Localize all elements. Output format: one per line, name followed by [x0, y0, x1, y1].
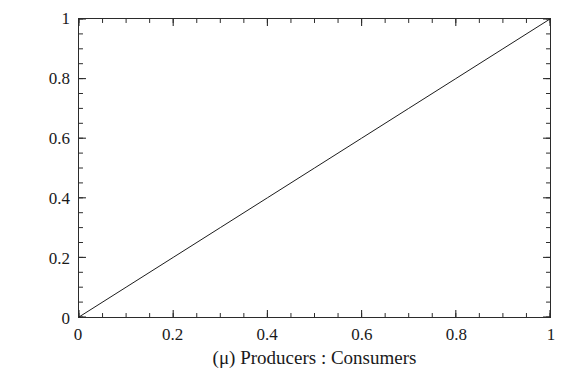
- data-line-diversity: [79, 19, 550, 317]
- figure-canvas: (d) Diversity 00.20.40.60.81 00.20.40.60…: [0, 0, 576, 380]
- y-tick-label: 0.6: [49, 130, 70, 147]
- x-axis-title: (μ) Producers : Consumers: [78, 347, 551, 369]
- y-tick-label: 1: [62, 10, 71, 27]
- y-tick-label: 0.8: [49, 70, 70, 87]
- x-tick-label: 0.6: [351, 326, 372, 343]
- data-series-group: [79, 19, 550, 317]
- y-tick-label: 0.2: [49, 250, 70, 267]
- x-tick-label: 0: [74, 326, 83, 343]
- plot-area: [78, 18, 551, 318]
- x-tick-label: 0.2: [162, 326, 183, 343]
- x-tick-label: 0.4: [257, 326, 278, 343]
- y-tick-label: 0: [62, 310, 71, 327]
- plot-svg: [79, 19, 550, 317]
- x-tick-label: 1: [547, 326, 556, 343]
- y-tick-label: 0.4: [49, 190, 70, 207]
- x-tick-label: 0.8: [446, 326, 467, 343]
